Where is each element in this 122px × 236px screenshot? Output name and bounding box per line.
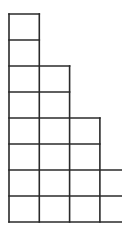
young-diagram (0, 0, 122, 236)
grid-lines (9, 14, 122, 222)
